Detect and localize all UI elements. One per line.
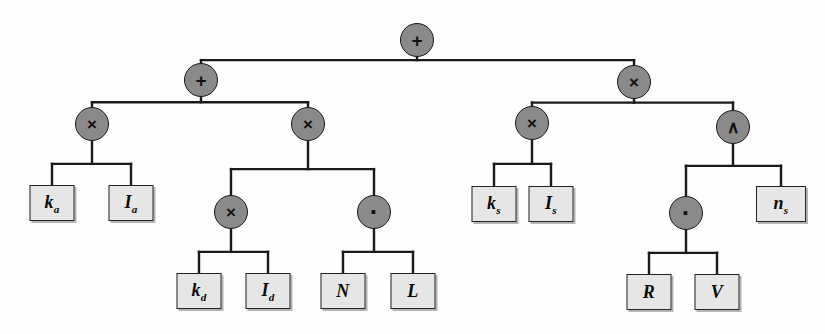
leaf-base-symbol: N [336, 281, 349, 301]
leaf-subscript: s [784, 203, 789, 215]
leaf-subscript: s [496, 203, 501, 215]
leaf-subscript: d [269, 290, 275, 302]
leaf-label: Is [545, 193, 557, 216]
leaf-node-kd[interactable]: kd [177, 273, 222, 309]
leaf-base-symbol: R [643, 282, 655, 302]
leaf-base-symbol: I [545, 193, 552, 213]
operator-glyph-plus: + [195, 71, 206, 90]
operator-glyph-times: × [226, 204, 236, 221]
leaf-node-Id[interactable]: Id [246, 273, 291, 309]
operator-glyph-plus: + [411, 31, 422, 50]
operator-glyph-power: ∧ [727, 119, 739, 136]
leaf-label: ns [774, 193, 789, 216]
leaf-label: R [643, 282, 655, 303]
leaf-node-ka[interactable]: ka [30, 185, 75, 221]
leaf-label: Id [261, 280, 274, 303]
leaf-subscript: d [201, 290, 207, 302]
operator-node-times[interactable]: × [214, 195, 248, 229]
leaf-base-symbol: k [487, 193, 496, 213]
operator-glyph-dot-product: · [682, 200, 691, 226]
operator-glyph-times: × [527, 115, 537, 132]
leaf-label: L [407, 281, 418, 302]
leaf-label: ka [44, 192, 59, 215]
leaf-node-ks[interactable]: ks [472, 186, 517, 222]
leaf-label: N [336, 281, 349, 302]
leaf-label: Ia [124, 192, 137, 215]
operator-node-dot-product[interactable]: · [669, 196, 703, 230]
leaf-base-symbol: V [711, 282, 723, 302]
leaf-label: V [711, 282, 723, 303]
operator-node-power[interactable]: ∧ [716, 110, 750, 144]
leaf-node-N[interactable]: N [321, 273, 366, 309]
leaf-node-L[interactable]: L [391, 273, 436, 309]
operator-glyph-dot-product: · [370, 199, 379, 225]
leaf-label: ks [487, 193, 501, 216]
operator-glyph-times: × [629, 74, 639, 91]
leaf-base-symbol: k [191, 280, 200, 300]
leaf-node-ns[interactable]: ns [756, 186, 806, 222]
leaf-base-symbol: n [774, 193, 784, 213]
leaf-node-R[interactable]: R [627, 274, 672, 310]
operator-glyph-times: × [87, 116, 97, 133]
operator-node-times[interactable]: × [515, 106, 549, 140]
leaf-label: kd [191, 280, 206, 303]
operator-node-dot-product[interactable]: · [357, 195, 391, 229]
expression-tree-diagram: ++×××·××∧·kaIakdIdNLksIsnsRV [0, 0, 825, 334]
leaf-base-symbol: L [407, 281, 418, 301]
operator-node-plus[interactable]: + [400, 23, 434, 57]
leaf-subscript: a [54, 202, 60, 214]
leaf-subscript: a [132, 202, 138, 214]
leaf-base-symbol: k [44, 192, 53, 212]
operator-node-plus[interactable]: + [184, 63, 218, 97]
operator-node-times[interactable]: × [75, 107, 109, 141]
operator-node-times[interactable]: × [291, 107, 325, 141]
leaf-node-Is[interactable]: Is [529, 186, 574, 222]
operator-node-times[interactable]: × [617, 65, 651, 99]
operator-glyph-times: × [303, 116, 313, 133]
leaf-node-Ia[interactable]: Ia [109, 185, 154, 221]
leaf-node-V[interactable]: V [695, 274, 740, 310]
leaf-subscript: s [552, 203, 557, 215]
